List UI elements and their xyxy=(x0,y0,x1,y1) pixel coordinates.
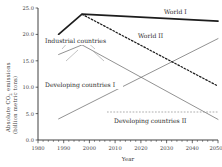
annotation-developing-countries-i: Developing countries I xyxy=(43,79,123,89)
y-axis-ticks: 25.0 20.0 15.0 10.0 5.0 0.0 xyxy=(22,5,38,143)
y-tick-label-10: 10.0 xyxy=(22,84,34,90)
x-tick-label-1980: 1980 xyxy=(31,145,44,151)
series-line-world-ii xyxy=(82,14,218,86)
annotation-industrial-countries: Industrial countries xyxy=(43,35,109,45)
x-tick-label-2050: 2050 xyxy=(209,145,222,151)
y-tick-label-5: 5.0 xyxy=(26,111,34,117)
x-tick-label-2040: 2040 xyxy=(186,145,199,151)
x-tick-label-2010: 2010 xyxy=(108,145,121,151)
annotation-world-i: World I xyxy=(162,6,202,16)
y-tick-label-20: 20.0 xyxy=(22,31,34,37)
x-axis-title: Year xyxy=(121,156,135,162)
series-line-developing-countries-i xyxy=(59,39,218,119)
y-tick-label-15: 15.0 xyxy=(22,58,34,64)
annotation-developing-countries-ii-label: Developing countries II xyxy=(114,117,187,125)
y-axis-title-line2: (billion metric tons) xyxy=(12,76,18,134)
co2-emissions-line-chart: Absolute CO2 emissions (billion metric t… xyxy=(0,0,222,167)
annotation-developing-countries-ii: Developing countries II xyxy=(112,115,198,125)
x-axis-ticks: 1980 1990 2000 2010 2020 2030 2040 2050 xyxy=(31,140,222,151)
annotation-world-i-label: World I xyxy=(164,8,187,15)
svg-text:(billion metric tons): (billion metric tons) xyxy=(12,76,18,134)
annotation-industrial-countries-label: Industrial countries xyxy=(45,37,106,44)
y-tick-label-25: 25.0 xyxy=(22,5,34,11)
annotation-world-ii: World II xyxy=(136,30,178,40)
x-tick-label-2000: 2000 xyxy=(83,145,96,151)
y-axis-title-part1: Absolute CO xyxy=(5,95,11,133)
annotation-world-ii-label: World II xyxy=(138,32,164,39)
annotation-developing-countries-i-label: Developing countries I xyxy=(45,81,116,89)
x-tick-label-2030: 2030 xyxy=(160,145,173,151)
y-tick-label-0: 0.0 xyxy=(26,137,34,143)
chart-container: Absolute CO2 emissions (billion metric t… xyxy=(0,0,222,167)
x-tick-label-1990: 1990 xyxy=(57,145,70,151)
y-axis-title-part2: emissions xyxy=(5,62,11,93)
y-axis-title: Absolute CO2 emissions (billion metric t… xyxy=(5,62,18,134)
x-tick-label-2020: 2020 xyxy=(134,145,147,151)
